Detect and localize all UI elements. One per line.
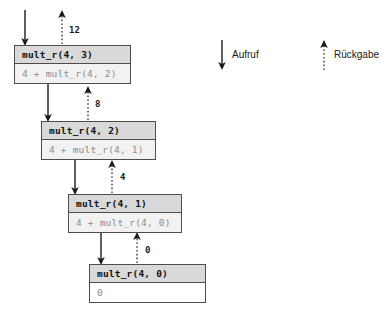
call-arrow-3-4 — [97, 232, 105, 265]
call-arrow-1-2 — [44, 84, 52, 122]
return-arrow-3-2 — [108, 160, 116, 193]
legend-return-arrow-icon — [320, 40, 328, 70]
stack-frame-4-signature: mult_r(4, 0) — [90, 265, 205, 283]
stack-frame-2-signature: mult_r(4, 2) — [42, 122, 155, 140]
return-value-label-0: 0 — [145, 245, 150, 255]
return-arrow-final — [58, 10, 66, 44]
legend-call-label: Aufruf — [232, 49, 259, 60]
stack-frame-2: mult_r(4, 2) 4 + mult_r(4, 1) — [41, 121, 156, 160]
stack-frame-3-body: 4 + mult_r(4, 0) — [69, 213, 181, 232]
stack-frame-3-signature: mult_r(4, 1) — [69, 195, 181, 213]
return-value-label-4: 4 — [120, 172, 125, 182]
stack-frame-3: mult_r(4, 1) 4 + mult_r(4, 0) — [68, 194, 182, 233]
stack-frame-4-body: 0 — [90, 283, 205, 302]
return-arrow-4-3 — [133, 232, 141, 263]
return-value-label-12: 12 — [69, 25, 80, 35]
call-arrow-initial — [21, 10, 29, 46]
legend-call-arrow-icon — [218, 40, 226, 70]
return-value-label-8: 8 — [95, 99, 100, 109]
return-arrow-2-1 — [84, 86, 92, 120]
stack-frame-1: mult_r(4, 3) 4 + mult_r(4, 2) — [14, 45, 131, 84]
call-arrow-2-3 — [71, 160, 79, 195]
legend-return-label: Rückgabe — [334, 49, 379, 60]
stack-frame-4: mult_r(4, 0) 0 — [89, 264, 206, 303]
stack-frame-2-body: 4 + mult_r(4, 1) — [42, 140, 155, 159]
stack-frame-1-body: 4 + mult_r(4, 2) — [15, 64, 130, 83]
stack-frame-1-signature: mult_r(4, 3) — [15, 46, 130, 64]
